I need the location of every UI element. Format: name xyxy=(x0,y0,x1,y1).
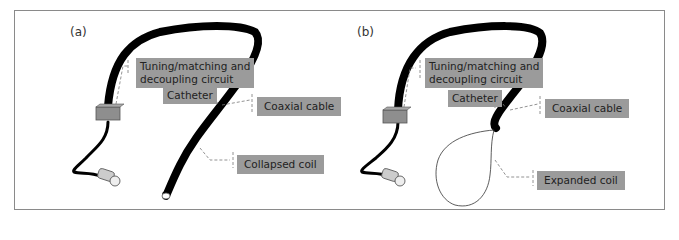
panel-a-drawing xyxy=(74,26,259,199)
panel-label-b: (b) xyxy=(357,25,374,39)
circuit-box-a xyxy=(96,104,124,120)
callout-catheter-b: Catheter xyxy=(448,90,502,107)
callout-coil-b: Expanded coil xyxy=(537,171,625,190)
callout-coil-a: Collapsed coil xyxy=(237,155,324,174)
bnc-connector-b-icon xyxy=(381,168,405,186)
callout-circuit-a: Tuning/matching and decoupling circuit xyxy=(136,58,254,88)
callout-circuit-a-line2: decoupling circuit xyxy=(140,73,250,86)
callout-circuit-b-line1: Tuning/matching and xyxy=(429,60,539,73)
panel-b-drawing xyxy=(362,26,543,206)
callout-circuit-a-line1: Tuning/matching and xyxy=(140,60,250,73)
panel-label-a: (a) xyxy=(70,25,87,39)
callout-catheter-a: Catheter xyxy=(163,87,217,104)
bnc-connector-a-icon xyxy=(97,168,120,186)
circuit-box-b xyxy=(383,107,411,123)
callout-coax-a: Coaxial cable xyxy=(257,97,341,116)
callout-circuit-b: Tuning/matching and decoupling circuit xyxy=(425,58,543,88)
callout-coax-b: Coaxial cable xyxy=(545,99,629,118)
callout-circuit-b-line2: decoupling circuit xyxy=(429,73,539,86)
